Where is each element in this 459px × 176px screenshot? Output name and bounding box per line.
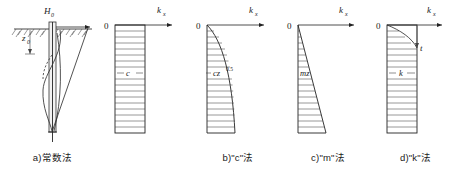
k-axis-label-c: k (249, 5, 254, 15)
panel-d-svg: 0 k x (284, 0, 372, 150)
distribution-hatching-e (387, 31, 417, 127)
k-axis-arrow-b (167, 23, 172, 27)
depth-symbol-z: z (21, 33, 26, 43)
k-axis-arrow-e (437, 23, 442, 27)
distribution-hatching-b (115, 31, 145, 127)
origin-label-e: 0 (376, 21, 381, 31)
function-label-c: cz (213, 68, 221, 78)
k-axis-subscript-e: x (432, 11, 436, 17)
panel-c-power-half: 0 k x (192, 0, 284, 150)
panel-b-svg: 0 k x c (100, 0, 192, 150)
figure-container: H 0 z 0 a)常数法 0 (0, 0, 459, 176)
origin-label-c: 0 (196, 21, 201, 31)
caption-panel-e: d)"k"法 (372, 150, 459, 172)
k-axis-subscript-c: x (254, 11, 258, 17)
depth-subscript-0: 0 (27, 39, 30, 45)
panel-c-svg: 0 k x (192, 0, 284, 150)
k-axis-subscript-d: x (344, 11, 348, 17)
panel-e-svg: 0 k x t (372, 0, 459, 150)
k-axis-arrow-d (349, 23, 354, 27)
k-axis-subscript-b: x (162, 11, 166, 17)
caption-panel-d: c)"m"法 (284, 150, 372, 172)
load-subscript-0: 0 (51, 12, 54, 18)
panel-d-linear: 0 k x (284, 0, 372, 150)
panel-a-svg: H 0 z 0 (0, 0, 105, 150)
function-label-e: k (399, 68, 403, 78)
caption-panel-a: a)常数法 (0, 150, 105, 172)
panel-a-pile-schematic: H 0 z 0 (0, 0, 105, 150)
origin-label-b: 0 (104, 21, 109, 31)
load-symbol-H: H (43, 6, 51, 16)
depth-marker-label-t: t (420, 43, 423, 53)
transition-curve-e (387, 25, 417, 48)
k-axis-label-d: k (339, 5, 344, 15)
k-axis-label-e: k (427, 5, 432, 15)
origin-label-d: 0 (287, 21, 292, 31)
depth-arrow-head (28, 49, 32, 54)
function-superscript-c: 0.5 (226, 66, 233, 72)
panel-b-constant: 0 k x c (100, 0, 192, 150)
function-label-d: mz (300, 68, 310, 78)
panel-e-k-method: 0 k x t (372, 0, 459, 150)
k-axis-label-b: k (157, 5, 162, 15)
caption-panel-c: b)"c"法 (192, 150, 284, 172)
k-axis-arrow-c (259, 23, 264, 27)
distribution-hatching-c (207, 31, 235, 127)
function-label-b: c (126, 68, 130, 78)
